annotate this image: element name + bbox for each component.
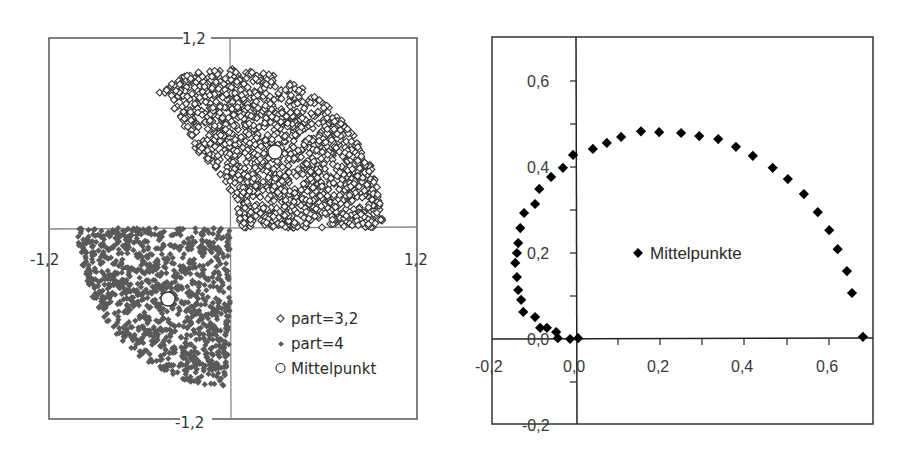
right-x-label-0-0: 0,0 [563, 358, 585, 375]
right-legend: Mittelpunkte [633, 244, 742, 263]
legend-marker-circle [276, 364, 285, 373]
legend-label-part-4: part=4 [291, 335, 344, 353]
left-x-max-label: 1,2 [404, 251, 428, 269]
right-x-label-minus-0-2: -0,2 [475, 358, 503, 375]
legend-label-part-3-2: part=3,2 [291, 310, 358, 328]
right-y-label-0-2: 0,2 [527, 245, 549, 262]
legend-label-mittelpunkte: Mittelpunkte [650, 244, 742, 263]
right-y-label-0-4: 0,4 [527, 159, 549, 176]
right-y-label-0-6: 0,6 [527, 73, 549, 90]
figure: 1,2 -1,2 -1,2 1,2 part=3,2 part=4 Mittel… [0, 0, 900, 457]
right-y-label-0-0: 0,0 [527, 331, 549, 348]
mittelpunkt-marker-q3 [161, 292, 175, 306]
left-y-min-label: -1,2 [175, 414, 204, 432]
right-y-label-minus-0-2: -0,2 [522, 417, 550, 434]
right-x-label-0-2: 0,2 [647, 358, 669, 375]
right-x-label-0-6: 0,6 [816, 358, 838, 375]
legend-label-mittelpunkt: Mittelpunkt [291, 360, 376, 378]
right-chart: 0,6 0,4 0,2 0,0 -0,2 -0,2 0,0 0,2 0,4 0,… [475, 37, 873, 434]
mittelpunkt-marker-q1 [268, 145, 282, 159]
left-y-max-label: 1,2 [182, 30, 206, 48]
left-chart: 1,2 -1,2 -1,2 1,2 part=3,2 part=4 Mittel… [30, 29, 428, 432]
left-x-min-label: -1,2 [30, 251, 59, 269]
right-x-label-0-4: 0,4 [731, 358, 753, 375]
